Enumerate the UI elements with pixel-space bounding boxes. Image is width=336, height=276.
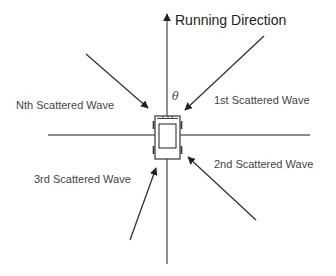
angle-theta-label: θ: [172, 90, 179, 103]
nth-scattered-wave-label: Nth Scattered Wave: [16, 99, 114, 111]
running-direction-label: Running Direction: [175, 12, 286, 28]
vehicle-icon: [154, 116, 182, 159]
third-scattered-wave-label: 3rd Scattered Wave: [34, 173, 131, 185]
third-scattered-wave-arrow: [130, 168, 156, 240]
first-scattered-wave-label: 1st Scattered Wave: [214, 94, 310, 106]
scattered-wave-diagram: [0, 0, 336, 276]
second-scattered-wave-label: 2nd Scattered Wave: [214, 158, 313, 170]
